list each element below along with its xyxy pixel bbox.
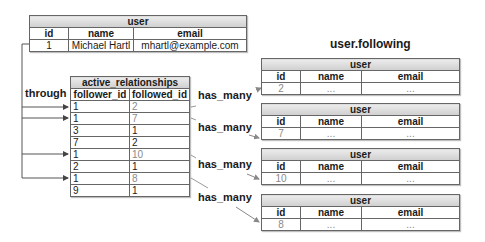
cell-name: ... bbox=[301, 173, 362, 185]
cell-email: ... bbox=[362, 83, 460, 95]
column-header: id bbox=[262, 71, 301, 83]
cell-follower-id: 9 bbox=[71, 185, 130, 197]
source-user-table: user id name email 1 Michael Hartl mhart… bbox=[29, 15, 247, 52]
result-title: user.following bbox=[330, 37, 411, 51]
table-title: user bbox=[30, 16, 247, 28]
cell-email: mhartl@example.com bbox=[134, 40, 247, 52]
column-header: name bbox=[69, 28, 134, 40]
table-title: user bbox=[262, 104, 460, 116]
cell-email: ... bbox=[362, 128, 460, 140]
column-header: id bbox=[30, 28, 69, 40]
column-header: email bbox=[362, 71, 460, 83]
cell-follower-id: 1 bbox=[71, 173, 130, 185]
table-row: 21 bbox=[71, 161, 190, 173]
cell-id: 7 bbox=[262, 128, 301, 140]
column-header: email bbox=[134, 28, 247, 40]
cell-followed-id: 10 bbox=[130, 149, 190, 161]
target-user-table: user idnameemail 10...... bbox=[261, 148, 460, 185]
table-row: 31 bbox=[71, 125, 190, 137]
column-header: follower_id bbox=[71, 89, 130, 101]
cell-id: 1 bbox=[30, 40, 69, 52]
cell-follower-id: 2 bbox=[71, 161, 130, 173]
column-header: id bbox=[262, 161, 301, 173]
target-user-table: user idnameemail 2...... bbox=[261, 58, 460, 95]
cell-follower-id: 1 bbox=[71, 113, 130, 125]
table-title: user bbox=[262, 149, 460, 161]
column-header: email bbox=[362, 161, 460, 173]
cell-name: ... bbox=[301, 219, 362, 231]
cell-name: ... bbox=[301, 128, 362, 140]
table-row: 91 bbox=[71, 185, 190, 197]
target-user-table: user idnameemail 7...... bbox=[261, 103, 460, 140]
through-label: through bbox=[25, 87, 67, 99]
table-row: 17 bbox=[71, 113, 190, 125]
table-title: user bbox=[262, 59, 460, 71]
cell-id: 2 bbox=[262, 83, 301, 95]
cell-id: 8 bbox=[262, 219, 301, 231]
column-header: email bbox=[362, 116, 460, 128]
cell-followed-id: 2 bbox=[130, 101, 190, 113]
cell-email: ... bbox=[362, 219, 460, 231]
has-many-label: has_many bbox=[198, 89, 252, 101]
cell-followed-id: 1 bbox=[130, 125, 190, 137]
cell-follower-id: 7 bbox=[71, 137, 130, 149]
cell-followed-id: 2 bbox=[130, 137, 190, 149]
column-header: id bbox=[262, 207, 301, 219]
cell-name: Michael Hartl bbox=[69, 40, 134, 52]
column-header: followed_id bbox=[130, 89, 190, 101]
cell-followed-id: 7 bbox=[130, 113, 190, 125]
cell-follower-id: 1 bbox=[71, 101, 130, 113]
table-title: active_relationships bbox=[71, 77, 190, 89]
cell-follower-id: 1 bbox=[71, 149, 130, 161]
table-row: 72 bbox=[71, 137, 190, 149]
column-header: name bbox=[301, 161, 362, 173]
active-relationships-table: active_relationships follower_id followe… bbox=[70, 76, 190, 197]
column-header: name bbox=[301, 71, 362, 83]
cell-follower-id: 3 bbox=[71, 125, 130, 137]
cell-name: ... bbox=[301, 83, 362, 95]
cell-followed-id: 8 bbox=[130, 173, 190, 185]
target-user-table: user idnameemail 8...... bbox=[261, 194, 460, 231]
column-header: name bbox=[301, 207, 362, 219]
cell-followed-id: 1 bbox=[130, 185, 190, 197]
has-many-label: has_many bbox=[198, 158, 252, 170]
cell-id: 10 bbox=[262, 173, 301, 185]
cell-followed-id: 1 bbox=[130, 161, 190, 173]
table-row: 110 bbox=[71, 149, 190, 161]
cell-email: ... bbox=[362, 173, 460, 185]
column-header: name bbox=[301, 116, 362, 128]
table-row: 12 bbox=[71, 101, 190, 113]
column-header: id bbox=[262, 116, 301, 128]
has-many-label: has_many bbox=[198, 121, 252, 133]
column-header: email bbox=[362, 207, 460, 219]
has-many-label: has_many bbox=[198, 191, 252, 203]
table-title: user bbox=[262, 195, 460, 207]
table-row: 18 bbox=[71, 173, 190, 185]
